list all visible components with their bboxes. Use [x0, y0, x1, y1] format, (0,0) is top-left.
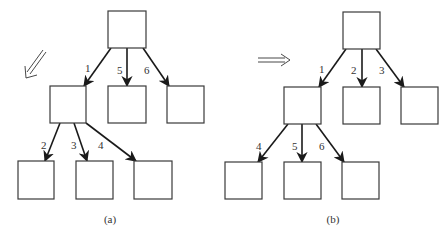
tree-diagram-canvas: 156234 123456 (a) (b)	[0, 0, 443, 239]
panel-b-breadth-first-tree: 123456	[225, 12, 438, 199]
edge-order-label: 2	[351, 64, 357, 76]
tree-node-box	[284, 162, 321, 199]
tree-node-box	[108, 86, 146, 123]
edge-order-label: 6	[144, 64, 150, 76]
double-arrow-right-icon	[258, 54, 290, 66]
tree-node-box	[108, 11, 146, 48]
tree-node-box	[76, 161, 113, 199]
edge-arrow	[45, 123, 60, 161]
edge-order-label: 5	[117, 64, 123, 76]
edge-order-label: 2	[41, 139, 47, 151]
tree-node-box	[284, 87, 321, 124]
edge-order-label: 3	[71, 139, 77, 151]
edge-arrow	[86, 123, 136, 161]
tree-node-box	[401, 87, 438, 124]
edge-order-label: 1	[85, 62, 91, 74]
panel-a-depth-first-tree: 156234	[18, 11, 204, 199]
edge-order-label: 1	[319, 63, 325, 75]
edge-order-label: 4	[98, 139, 104, 151]
edge-order-label: 3	[379, 64, 385, 76]
tree-node-box	[167, 86, 204, 123]
tree-node-box	[50, 86, 86, 123]
double-arrow-down-left-icon	[25, 50, 46, 78]
tree-node-box	[225, 162, 262, 199]
caption-a: (a)	[104, 213, 117, 226]
edge-arrow	[258, 124, 288, 162]
edge-order-label: 6	[319, 140, 325, 152]
tree-node-box	[18, 161, 54, 199]
tree-node-box	[343, 87, 380, 124]
caption-b: (b)	[327, 213, 340, 226]
edge-order-label: 4	[256, 140, 262, 152]
tree-node-box	[134, 161, 172, 199]
tree-node-box	[343, 12, 380, 49]
edge-order-label: 5	[292, 140, 298, 152]
tree-node-box	[342, 162, 379, 199]
